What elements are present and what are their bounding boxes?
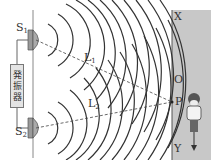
wavefronts-s2 — [48, 20, 183, 160]
oscillator-char-3: 器 — [13, 92, 22, 103]
wire-to-s1 — [17, 40, 28, 64]
label-p: P — [175, 96, 182, 107]
label-s1: S1 — [16, 22, 28, 35]
label-o: O — [174, 74, 183, 85]
label-l1: L1 — [84, 52, 96, 65]
label-l2: L2 — [88, 98, 100, 111]
label-s2: S2 — [15, 126, 27, 139]
label-y: Y — [174, 143, 181, 154]
oscillator-char-2: 振 — [13, 81, 22, 92]
path-l2 — [36, 102, 172, 128]
oscillator-box: 発 振 器 — [10, 64, 24, 108]
oscillator-char-1: 発 — [13, 70, 22, 81]
point-p-marker — [171, 101, 174, 104]
label-x: X — [174, 11, 182, 22]
